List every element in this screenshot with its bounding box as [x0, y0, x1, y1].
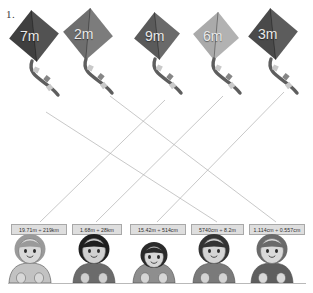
child-hand [80, 273, 89, 283]
child-eye [148, 255, 151, 259]
child-body [9, 263, 51, 283]
child-hand [200, 273, 209, 283]
child-body [193, 263, 235, 283]
ground-line [8, 283, 306, 284]
child-eye [97, 249, 100, 253]
child-hand [98, 273, 107, 283]
child-hand [34, 273, 43, 283]
child-eye [88, 249, 91, 253]
child-body [73, 263, 115, 283]
child-eye [157, 255, 160, 259]
child-eye [24, 249, 27, 253]
child-eye [266, 249, 269, 253]
child-hand [218, 273, 227, 283]
worksheet-page: 1. 7m2m9m6m3m 19.71m ÷ 219km1.68m ÷ 28km… [0, 0, 313, 293]
child-eye [275, 249, 278, 253]
child-body [251, 263, 293, 283]
child-3 [133, 242, 175, 283]
child-eye [217, 249, 220, 253]
child-4 [193, 234, 235, 283]
child-hand [158, 273, 167, 283]
child-5 [251, 234, 293, 283]
child-hand [276, 273, 285, 283]
child-eye [33, 249, 36, 253]
child-eye [208, 249, 211, 253]
child-hand [140, 273, 149, 283]
child-hand [16, 273, 25, 283]
child-1 [9, 234, 51, 283]
children-group [0, 0, 313, 293]
child-hand [258, 273, 267, 283]
child-2 [73, 234, 115, 283]
